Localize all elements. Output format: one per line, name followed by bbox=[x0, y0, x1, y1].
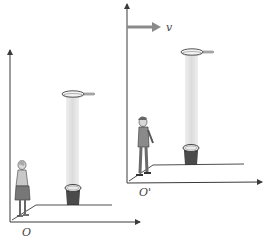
relativity-diagram: O v bbox=[0, 0, 275, 242]
floor-o bbox=[12, 205, 112, 220]
detector-o-prime bbox=[183, 145, 199, 166]
light-beam-o-prime bbox=[185, 55, 198, 149]
observer-woman bbox=[15, 160, 30, 216]
x-axis-o-prime bbox=[127, 182, 262, 183]
mirror-o-prime bbox=[181, 49, 214, 56]
origin-label-o: O bbox=[22, 226, 31, 239]
mirror-o bbox=[62, 91, 95, 98]
frame-o: O bbox=[10, 50, 140, 239]
detector-o bbox=[65, 185, 81, 206]
origin-label-o-prime: O' bbox=[139, 186, 151, 199]
velocity-arrow bbox=[127, 22, 161, 32]
velocity-label: v bbox=[166, 21, 173, 34]
light-beam-o bbox=[66, 97, 79, 185]
frame-o-prime: v O' bbox=[127, 4, 262, 199]
